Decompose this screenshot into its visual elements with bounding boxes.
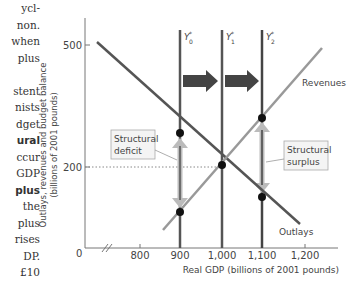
svg-text:Structural: Structural [114,134,159,144]
svg-text:deficit: deficit [114,146,142,156]
x-tick-800: 800 [130,250,149,261]
structural-deficit-label: Structural deficit [111,130,177,160]
data-point [258,114,266,122]
chart: Structural deficit Structural surplus Re… [0,0,353,286]
y-tick-500: 500 [63,40,82,51]
data-point [218,161,226,169]
revenues-label: Revenues [302,78,346,88]
y-tick-200: 200 [63,162,82,173]
data-point [258,193,266,201]
shift-arrow-icon [183,70,218,92]
svg-text:surplus: surplus [287,157,320,167]
y-axis-title: Outlays, revenues and budget balance (bi… [38,63,59,228]
svg-text:Outlays, revenues and budget b: Outlays, revenues and budget balance [38,63,48,228]
y-tick-0: 0 [76,248,82,259]
svg-text:*: * [231,30,234,37]
svg-text:(billions of 2001 pounds): (billions of 2001 pounds) [49,92,59,198]
structural-surplus-label: Structural surplus [266,141,332,170]
y0-star-label: Y * 0 [184,30,193,45]
svg-text:Structural: Structural [287,145,332,155]
x-tick-1200: 1,200 [291,250,320,261]
data-point [176,208,184,216]
svg-text:1: 1 [231,38,235,45]
x-tick-1000: 1,000 [208,250,237,261]
svg-text:*: * [189,30,192,37]
data-point [176,129,184,137]
x-axis-title: Real GDP (billions of 2001 pounds) [183,265,339,275]
x-tick-1100: 1,100 [248,250,277,261]
y2-star-label: Y * 2 [266,30,275,45]
y1-star-label: Y * 1 [226,30,235,45]
outlays-label: Outlays [279,227,314,237]
x-tick-900: 900 [170,250,189,261]
svg-text:0: 0 [189,38,193,45]
svg-text:*: * [271,30,274,37]
svg-text:2: 2 [271,38,275,45]
shift-arrow-icon [225,70,259,92]
